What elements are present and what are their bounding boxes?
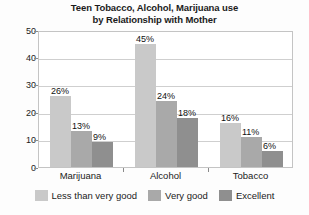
- bar-chart: Teen Tobacco, Alcohol, Marijuana use by …: [0, 0, 309, 215]
- bar: [92, 142, 113, 167]
- x-axis-category-label: Tobacco: [208, 170, 293, 181]
- y-axis-tick-label: 20: [4, 109, 36, 118]
- chart-title-line-2: by Relationship with Mother: [0, 14, 309, 26]
- y-axis-tick-label: 50: [4, 27, 36, 36]
- y-axis-tick-label: 30: [4, 81, 36, 90]
- y-axis: 01020304050: [0, 31, 36, 168]
- bar: [156, 101, 177, 167]
- bar: [50, 96, 71, 167]
- x-axis-tick-mark: [123, 168, 124, 172]
- plot-area: 26%13%9%45%24%18%16%11%6%: [38, 31, 293, 168]
- bar: [241, 137, 262, 167]
- x-axis-category-label: Alcohol: [123, 170, 208, 181]
- plot-inner: 26%13%9%45%24%18%16%11%6%: [39, 32, 292, 167]
- y-axis-tick-label: 0: [4, 164, 36, 173]
- x-axis-category-label: Marijuana: [38, 170, 123, 181]
- y-axis-tick-label: 40: [4, 54, 36, 63]
- y-axis-tick-label: 10: [4, 136, 36, 145]
- bar-group: [135, 32, 198, 167]
- legend-swatch-icon: [219, 190, 232, 201]
- bar: [71, 131, 92, 167]
- chart-title: Teen Tobacco, Alcohol, Marijuana use by …: [0, 2, 309, 25]
- bar: [220, 123, 241, 167]
- x-axis-tick-mark: [208, 168, 209, 172]
- chart-title-line-1: Teen Tobacco, Alcohol, Marijuana use: [0, 2, 309, 14]
- chart-legend: Less than very goodVery goodExcellent: [0, 190, 309, 201]
- bar-group: [220, 32, 283, 167]
- bar-group: [50, 32, 113, 167]
- legend-swatch-icon: [35, 190, 48, 201]
- legend-label: Very good: [165, 190, 208, 201]
- legend-item[interactable]: Very good: [148, 190, 208, 201]
- x-axis: MarijuanaAlcoholTobacco: [38, 170, 293, 184]
- legend-label: Excellent: [236, 190, 275, 201]
- bar: [177, 118, 198, 167]
- legend-item[interactable]: Less than very good: [35, 190, 138, 201]
- bar: [135, 44, 156, 167]
- legend-label: Less than very good: [52, 190, 138, 201]
- legend-swatch-icon: [148, 190, 161, 201]
- bar: [262, 151, 283, 167]
- legend-item[interactable]: Excellent: [219, 190, 275, 201]
